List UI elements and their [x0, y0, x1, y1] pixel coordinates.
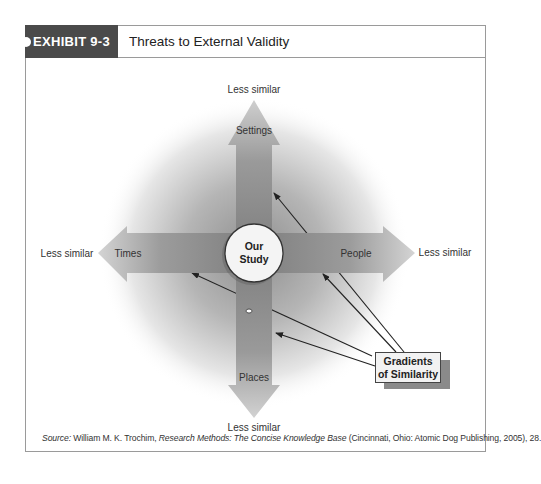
- callout-line1: Gradients: [376, 355, 440, 368]
- left-end-label: Less similar: [41, 248, 94, 259]
- source-author: William M. K. Trochim,: [71, 433, 159, 443]
- our-study-line1: Our: [239, 240, 268, 253]
- down-end-label: Less similar: [228, 422, 281, 433]
- settings-label: Settings: [236, 125, 272, 136]
- our-study-line2: Study: [239, 253, 268, 266]
- our-study-label: Our Study: [239, 240, 268, 266]
- callout-line2: of Similarity: [376, 368, 440, 381]
- up-end-label: Less similar: [228, 84, 281, 95]
- source-book-title: Research Methods: The Concise Knowledge …: [159, 433, 347, 443]
- source-citation: Source: William M. K. Trochim, Research …: [42, 433, 541, 443]
- right-end-label: Less similar: [419, 247, 472, 258]
- places-label: Places: [239, 372, 269, 383]
- people-label: People: [340, 248, 371, 259]
- times-label: Times: [115, 248, 142, 259]
- gradients-callout: Gradients of Similarity: [375, 352, 441, 383]
- marker-dot: [246, 309, 252, 313]
- source-prefix: Source:: [42, 433, 71, 443]
- source-publication: (Cincinnati, Ohio: Atomic Dog Publishing…: [346, 433, 541, 443]
